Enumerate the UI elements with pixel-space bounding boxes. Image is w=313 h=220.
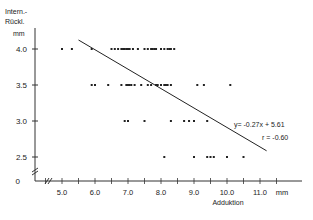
data-point xyxy=(206,156,208,158)
data-point xyxy=(129,48,131,50)
x-tick-label: 9.0 xyxy=(189,188,199,197)
data-point xyxy=(183,120,185,122)
data-point xyxy=(124,120,126,122)
data-point xyxy=(130,84,132,86)
data-point xyxy=(117,48,119,50)
y-axis-title: Rückl. xyxy=(5,18,25,25)
chart-canvas: 02.53.03.54.0Intern.-Rückl.mm5.06.07.08.… xyxy=(0,0,313,220)
data-point xyxy=(147,84,149,86)
data-point xyxy=(94,84,96,86)
regression-equation: y= -0.27x + 5.61 xyxy=(234,121,285,129)
data-point xyxy=(193,156,195,158)
data-point xyxy=(163,156,165,158)
data-point xyxy=(155,48,157,50)
data-point xyxy=(206,120,208,122)
data-point xyxy=(203,84,205,86)
data-points xyxy=(61,48,245,158)
data-point xyxy=(111,48,113,50)
data-point xyxy=(170,84,172,86)
regression-line-path xyxy=(79,40,267,151)
data-point xyxy=(150,84,152,86)
data-point xyxy=(213,156,215,158)
y-axis-unit: mm xyxy=(13,30,25,37)
x-tick-label: 6.0 xyxy=(90,188,100,197)
data-point xyxy=(144,48,146,50)
data-point xyxy=(167,84,169,86)
y-axis-title: Intern.- xyxy=(5,8,28,15)
x-tick-label: 11.0 xyxy=(253,188,267,197)
data-point xyxy=(61,48,63,50)
data-point xyxy=(127,120,129,122)
x-tick-label: 8.0 xyxy=(156,188,166,197)
y-tick-label: 3.5 xyxy=(16,81,28,90)
data-point xyxy=(160,84,162,86)
regression-line: y= -0.27x + 5.61r = -0.60 xyxy=(79,40,289,151)
correlation-coefficient: r = -0.60 xyxy=(262,134,288,141)
data-point xyxy=(193,120,195,122)
data-point xyxy=(160,48,162,50)
y-tick-label: 3.0 xyxy=(16,117,28,126)
x-tick-label: 5.0 xyxy=(57,188,67,197)
data-point xyxy=(163,48,165,50)
axes: 02.53.03.54.0Intern.-Rückl.mm5.06.07.08.… xyxy=(5,8,302,206)
data-point xyxy=(144,120,146,122)
data-point xyxy=(196,84,198,86)
x-axis-title: Adduktion xyxy=(212,199,243,206)
data-point xyxy=(137,48,139,50)
data-point xyxy=(107,84,109,86)
data-point xyxy=(170,48,172,50)
data-point xyxy=(134,84,136,86)
data-point xyxy=(140,84,142,86)
data-point xyxy=(229,84,231,86)
data-point xyxy=(147,48,149,50)
data-point xyxy=(132,48,134,50)
scatter-chart: 02.53.03.54.0Intern.-Rückl.mm5.06.07.08.… xyxy=(0,0,313,220)
y-tick-label: 4.0 xyxy=(16,45,28,54)
x-tick-label: 7.0 xyxy=(123,188,133,197)
x-axis-unit: mm xyxy=(276,188,289,197)
data-point xyxy=(91,84,93,86)
data-point xyxy=(188,120,190,122)
y-tick-label: 0 xyxy=(16,177,21,186)
data-point xyxy=(243,156,245,158)
data-point xyxy=(170,120,172,122)
data-point xyxy=(210,156,212,158)
data-point xyxy=(120,84,122,86)
data-point xyxy=(173,48,175,50)
data-point xyxy=(226,156,228,158)
data-point xyxy=(114,48,116,50)
data-point xyxy=(71,48,73,50)
y-tick-label: 2.5 xyxy=(16,153,28,162)
x-tick-label: 10.0 xyxy=(220,188,235,197)
